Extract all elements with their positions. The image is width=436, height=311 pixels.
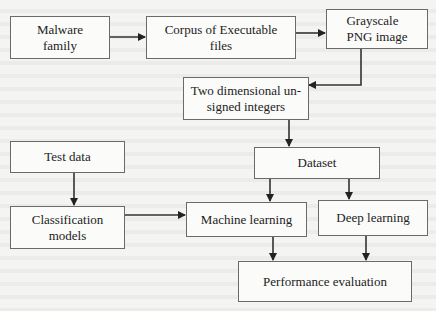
node-dataset: Dataset <box>254 147 380 179</box>
node-label: Test data <box>44 149 90 165</box>
node-label: signed integers <box>191 99 301 115</box>
node-label: family <box>37 38 83 54</box>
arrow-grayscale-to-twodim <box>309 48 361 85</box>
node-test-data: Test data <box>10 141 125 173</box>
node-label: PNG image <box>346 29 407 45</box>
node-label: models <box>32 228 104 244</box>
node-deep-learning: Deep learning <box>318 200 428 236</box>
node-corpus-executable-files: Corpus of Executablefiles <box>146 16 296 59</box>
node-label: files <box>165 38 278 54</box>
node-grayscale-png-image: GrayscalePNG image <box>326 9 428 49</box>
node-label: Classification <box>32 212 104 228</box>
node-label: Grayscale <box>346 13 407 29</box>
node-classification-models: Classificationmodels <box>10 206 125 249</box>
node-label: Corpus of Executable <box>165 22 278 38</box>
node-performance-evaluation: Performance evaluation <box>238 261 412 302</box>
node-malware-family: Malwarefamily <box>10 16 110 59</box>
node-label: Two dimensional un- <box>191 83 301 99</box>
node-label: Machine learning <box>201 212 292 228</box>
node-label: Malware <box>37 22 83 38</box>
node-label: Performance evaluation <box>263 274 387 290</box>
node-label: Deep learning <box>336 210 409 226</box>
node-two-dimensional-integers: Two dimensional un-signed integers <box>183 77 309 120</box>
node-machine-learning: Machine learning <box>186 202 307 237</box>
node-label: Dataset <box>298 155 337 171</box>
